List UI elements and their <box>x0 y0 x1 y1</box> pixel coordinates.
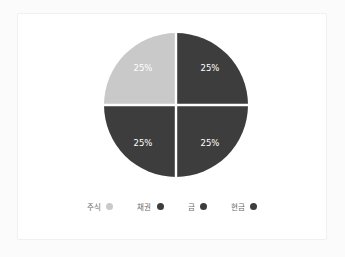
legend-color-dot-stocks <box>106 203 113 210</box>
legend-label-stocks: 주식 <box>87 201 101 212</box>
slice-value-top-left: 25% <box>134 63 153 73</box>
legend-label-bonds: 채권 <box>137 201 151 212</box>
legend-item-stocks[interactable]: 주식 <box>87 201 113 212</box>
pie-graphic: 25% 25% 25% 25% <box>104 33 248 177</box>
legend-color-dot-cash <box>250 203 257 210</box>
pie-chart: 25% 25% 25% 25% 주식 채권 금 현금 <box>18 14 326 239</box>
legend-item-gold[interactable]: 금 <box>188 201 207 212</box>
legend-item-bonds[interactable]: 채권 <box>137 201 163 212</box>
legend-label-cash: 현금 <box>231 201 245 212</box>
legend-color-dot-bonds <box>157 203 164 210</box>
pie-svg: 25% 25% 25% 25% <box>104 33 248 177</box>
slice-value-top-right: 25% <box>201 63 220 73</box>
legend-item-cash[interactable]: 현금 <box>231 201 257 212</box>
legend-label-gold: 금 <box>188 201 195 212</box>
chart-legend: 주식 채권 금 현금 <box>18 201 326 212</box>
chart-card: 25% 25% 25% 25% 주식 채권 금 현금 <box>17 13 327 240</box>
slice-value-bottom-left: 25% <box>134 138 153 148</box>
legend-color-dot-gold <box>200 203 207 210</box>
slice-value-bottom-right: 25% <box>201 138 220 148</box>
